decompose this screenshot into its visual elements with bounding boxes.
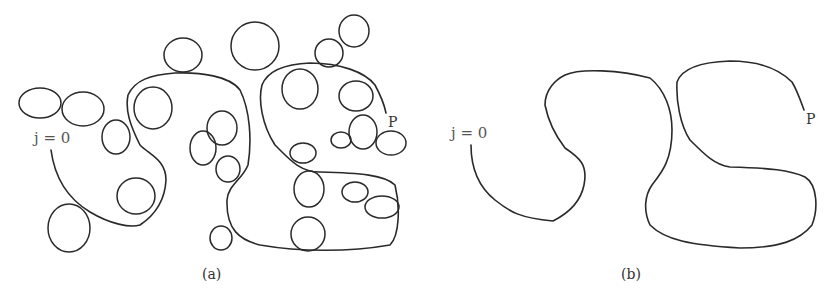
loop [231,22,279,70]
loop [315,39,343,67]
loop [365,196,399,218]
loop [291,217,325,251]
loop [339,15,369,47]
loop [290,143,316,163]
panel-b-start-label: j = 0 [449,124,487,142]
panel-a-start-label: j = 0 [32,129,70,147]
loop [216,156,240,182]
loop [376,131,406,155]
loop [48,204,90,252]
panel-a: j = 0 P (a) [19,15,406,282]
loop [19,88,61,118]
panel-a-end-label: P [388,114,397,130]
panel-b: j = 0 P (b) [449,61,816,282]
loop [210,226,232,250]
loop [349,115,377,149]
panel-b-caption: (b) [621,266,641,282]
panel-b-main-path [471,61,816,248]
loop [102,120,130,154]
loop [207,111,237,145]
panel-a-caption: (a) [202,266,221,282]
loop [342,182,368,202]
loop [164,38,202,72]
panel-b-end-label: P [806,111,815,127]
loop [117,178,155,214]
loop [282,69,318,109]
loop [331,132,351,148]
loop [190,131,216,165]
figure-canvas: j = 0 P (a) j = 0 P (b) [0,0,836,306]
loop [134,87,172,129]
loop [294,171,324,207]
loop [339,81,373,111]
loop [62,92,104,126]
